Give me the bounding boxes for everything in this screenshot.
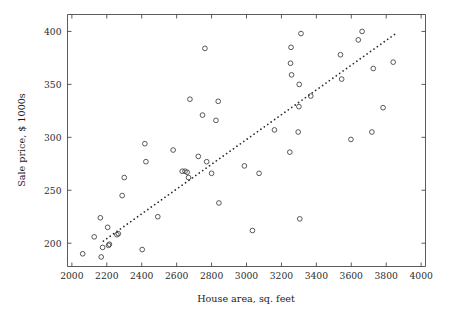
data-point (144, 159, 149, 164)
x-axis-label: House area, sq. feet (197, 293, 295, 304)
data-point (289, 73, 294, 78)
data-point (296, 130, 301, 135)
data-point (204, 159, 209, 164)
data-point (120, 193, 125, 198)
plot-canvas: 2000220024002600280030003200340036003800… (0, 0, 459, 316)
data-point (203, 46, 208, 51)
data-point (100, 245, 105, 250)
data-point (288, 61, 293, 66)
data-point (299, 31, 304, 36)
x-tick-label: 3600 (340, 270, 364, 281)
x-tick-label: 3000 (235, 270, 259, 281)
y-axis-ticks: 200250300350400 (44, 26, 426, 249)
data-point (98, 215, 103, 220)
x-tick-label: 2200 (95, 270, 119, 281)
data-point (216, 99, 221, 104)
data-point (338, 52, 343, 57)
data-point (209, 171, 214, 176)
data-point (214, 118, 219, 123)
data-point (242, 164, 247, 169)
data-point (370, 130, 375, 135)
data-point (297, 82, 302, 87)
x-tick-label: 3200 (270, 270, 294, 281)
y-tick-label: 400 (44, 26, 62, 37)
data-point (105, 225, 110, 230)
data-point (356, 38, 361, 43)
data-point (217, 201, 222, 206)
data-point (92, 235, 97, 240)
x-tick-label: 2400 (130, 270, 154, 281)
data-point (360, 29, 365, 34)
data-point (287, 150, 292, 155)
data-point (272, 128, 277, 133)
x-tick-label: 2600 (165, 270, 189, 281)
data-point (297, 104, 302, 109)
x-tick-label: 4000 (409, 270, 433, 281)
data-point (391, 60, 396, 65)
y-axis-label: Sale price, $ 1000s (16, 93, 27, 187)
x-axis-ticks: 2000220024002600280030003200340036003800… (60, 15, 433, 281)
data-point (155, 214, 160, 219)
data-point (381, 105, 386, 110)
data-point (339, 77, 344, 82)
data-point (250, 228, 255, 233)
data-point (116, 231, 121, 236)
x-tick-label: 2800 (200, 270, 224, 281)
x-tick-label: 3400 (305, 270, 329, 281)
data-point (349, 137, 354, 142)
scatter-plot-figure: 2000220024002600280030003200340036003800… (0, 0, 459, 316)
data-point (289, 45, 294, 50)
data-point (143, 141, 148, 146)
data-point (140, 247, 145, 252)
data-point (297, 217, 302, 222)
data-point (122, 175, 127, 180)
y-tick-label: 300 (44, 132, 62, 143)
y-tick-label: 200 (44, 238, 62, 249)
data-point (371, 66, 376, 71)
data-point (186, 175, 191, 180)
x-tick-label: 2000 (60, 270, 84, 281)
data-point (188, 97, 193, 102)
data-point (80, 251, 85, 256)
data-point (171, 148, 176, 153)
y-tick-label: 250 (44, 185, 62, 196)
data-point (99, 255, 104, 260)
data-point (257, 171, 262, 176)
y-tick-label: 350 (44, 79, 62, 90)
x-tick-label: 3800 (375, 270, 399, 281)
data-point (196, 154, 201, 159)
data-point (200, 113, 205, 118)
